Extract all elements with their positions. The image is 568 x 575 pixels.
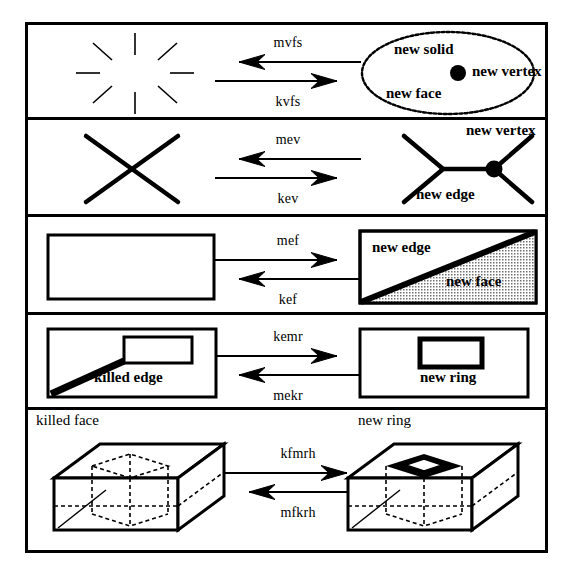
arrow-label-mekr: mekr [213,388,363,404]
new-edge-label: new edge [416,186,475,203]
new-ring-label: new ring [420,369,476,386]
killed-edge-rectangle-shape [46,327,218,399]
new-solid-label: new solid [394,41,454,58]
new-vertex-label: new vertex [466,122,536,139]
euler-operators-figure: mvfs kvfs new solid new vertex new face [25,22,548,553]
arrow-pair-mvfs-kvfs: mvfs kvfs [213,37,363,107]
killed-edge-label: killed edge [94,369,163,386]
new-face-label: new face [386,85,441,102]
new-ring-rectangle-shape [358,327,530,399]
arrow-label-mef: mef [213,233,363,249]
arrow-pair-kemr-mekr: kemr mekr [213,331,363,401]
new-edge-label: new edge [372,239,431,256]
arrow-label-mev: mev [213,132,363,148]
row-mev-kev: mev kev new vertex new edge [28,120,545,217]
arrow-label-kvfs: kvfs [213,94,363,110]
arrow-label-mvfs: mvfs [213,35,363,51]
row-kfmrh-mfkrh: killed face kfmrh [28,410,545,550]
box-with-cavity-shape [44,430,234,542]
arrow-label-kef: kef [213,292,363,308]
empty-rectangle-shape [46,233,216,301]
row-mvfs-kvfs: mvfs kvfs new solid new vertex new face [28,25,545,120]
starburst-void-shape [70,31,200,116]
arrow-label-kev: kev [213,191,363,207]
new-face-label: new face [446,273,501,290]
new-vertex-label: new vertex [472,63,542,80]
arrow-pair-mev-kev: mev kev [213,134,363,204]
arrow-label-kemr: kemr [213,329,363,345]
box-with-hole-shape [338,430,533,542]
x-cross-shape [78,130,188,208]
row-kemr-mekr: killed edge kemr mekr new ring [28,315,545,410]
killed-face-label: killed face [36,412,99,429]
row-mef-kef: mef kef n [28,217,545,315]
arrow-pair-mef-kef: mef kef [213,235,363,305]
new-ring-label: new ring [358,412,411,429]
